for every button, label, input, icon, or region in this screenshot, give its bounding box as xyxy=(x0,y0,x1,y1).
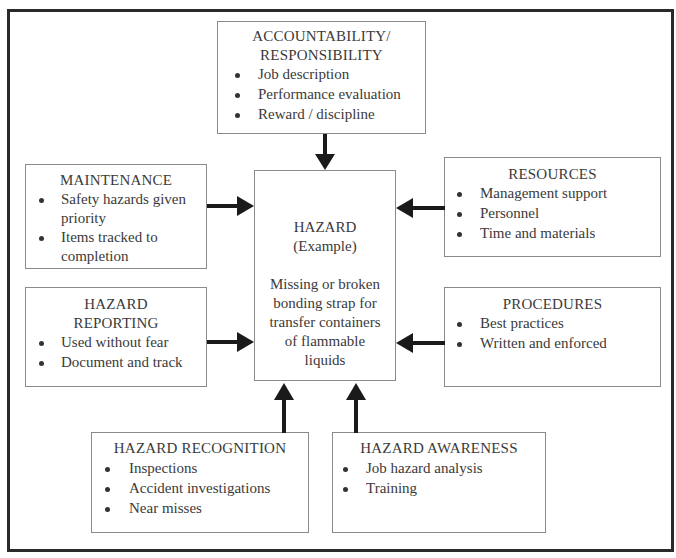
center-subtitle: (Example) xyxy=(255,237,395,256)
list-item: Reward / discipline xyxy=(218,105,425,124)
list-item: Document and track xyxy=(26,353,206,372)
item-text: Personnel xyxy=(480,205,539,221)
box-hazard-center: HAZARD (Example) Missing or broken bondi… xyxy=(254,170,396,381)
title-line: REPORTING xyxy=(26,314,206,333)
arrow-up-icon xyxy=(344,382,368,433)
box-title: HAZARD AWARENESS xyxy=(333,439,545,458)
bullet-icon xyxy=(343,467,348,472)
item-list: Safety hazards givenpriority Items track… xyxy=(26,190,206,266)
item-text: Job hazard analysis xyxy=(366,460,483,476)
arrow-down-icon xyxy=(313,134,337,172)
item-text: priority xyxy=(61,209,206,228)
list-item: Inspections xyxy=(92,459,308,478)
item-text: Near misses xyxy=(129,500,202,516)
list-item: Time and materials xyxy=(445,224,660,243)
description-line: bonding strap for xyxy=(255,294,395,313)
box-title: MAINTENANCE xyxy=(26,171,206,190)
box-hazard-reporting: HAZARD REPORTING Used without fear Docum… xyxy=(25,287,207,387)
description-line: of flammable xyxy=(255,332,395,351)
bullet-icon xyxy=(457,212,462,217)
item-text: Performance evaluation xyxy=(258,86,401,102)
list-item: Job description xyxy=(218,65,425,84)
bullet-icon xyxy=(457,192,462,197)
arrow-left-icon xyxy=(395,332,445,354)
title-line: ACCOUNTABILITY/ xyxy=(218,27,425,46)
box-title: ACCOUNTABILITY/ RESPONSIBILITY xyxy=(218,27,425,65)
box-accountability: ACCOUNTABILITY/ RESPONSIBILITY Job descr… xyxy=(217,21,426,134)
title-line: HAZARD RECOGNITION xyxy=(92,439,308,458)
item-text: Written and enforced xyxy=(480,335,607,351)
item-list: Job hazard analysis Training xyxy=(333,459,545,498)
center-title: HAZARD xyxy=(255,218,395,237)
item-list: Management support Personnel Time and ma… xyxy=(445,184,660,243)
bullet-icon xyxy=(105,507,110,512)
item-text: Training xyxy=(366,480,417,496)
bullet-icon xyxy=(39,198,44,203)
bullet-icon xyxy=(457,322,462,327)
item-text: Inspections xyxy=(129,460,197,476)
item-list: Job description Performance evaluation R… xyxy=(218,65,425,124)
arrow-left-icon xyxy=(395,197,445,219)
title-line: HAZARD AWARENESS xyxy=(333,439,545,458)
item-text: Time and materials xyxy=(480,225,595,241)
item-list: Best practices Written and enforced xyxy=(445,314,660,353)
bullet-icon xyxy=(235,113,240,118)
bullet-icon xyxy=(105,487,110,492)
list-item: Performance evaluation xyxy=(218,85,425,104)
item-text: Document and track xyxy=(61,354,183,370)
bullet-icon xyxy=(235,73,240,78)
list-item: Written and enforced xyxy=(445,334,660,353)
center-description: Missing or broken bonding strap for tran… xyxy=(255,275,395,370)
item-text: Best practices xyxy=(480,315,564,331)
arrow-right-icon xyxy=(207,331,257,353)
item-text: Accident investigations xyxy=(129,480,270,496)
arrow-right-icon xyxy=(207,195,257,217)
bullet-icon xyxy=(235,93,240,98)
box-procedures: PROCEDURES Best practices Written and en… xyxy=(444,287,661,387)
title-line: PROCEDURES xyxy=(445,295,660,314)
box-hazard-recognition: HAZARD RECOGNITION Inspections Accident … xyxy=(91,432,309,533)
item-list: Inspections Accident investigations Near… xyxy=(92,459,308,518)
list-item: Used without fear xyxy=(26,333,206,352)
bullet-icon xyxy=(343,487,348,492)
list-item: Near misses xyxy=(92,499,308,518)
bullet-icon xyxy=(457,342,462,347)
bullet-icon xyxy=(39,341,44,346)
item-text: Used without fear xyxy=(61,334,168,350)
arrow-up-icon xyxy=(272,382,296,433)
list-item: Items tracked tocompletion xyxy=(26,228,206,266)
list-item: Training xyxy=(333,479,545,498)
item-text: Items tracked to xyxy=(61,228,206,247)
box-title: PROCEDURES xyxy=(445,295,660,314)
item-text: Safety hazards given xyxy=(61,190,206,209)
title-line: MAINTENANCE xyxy=(26,171,206,190)
title-line: RESPONSIBILITY xyxy=(218,46,425,65)
bullet-icon xyxy=(39,236,44,241)
item-text: completion xyxy=(61,247,206,266)
box-title: HAZARD REPORTING xyxy=(26,295,206,333)
list-item: Job hazard analysis xyxy=(333,459,545,478)
box-hazard-awareness: HAZARD AWARENESS Job hazard analysis Tra… xyxy=(332,432,546,533)
list-item: Personnel xyxy=(445,204,660,223)
title-line: HAZARD xyxy=(26,295,206,314)
item-text: Job description xyxy=(258,66,349,82)
item-text: Reward / discipline xyxy=(258,106,375,122)
list-item: Management support xyxy=(445,184,660,203)
box-title: HAZARD RECOGNITION xyxy=(92,439,308,458)
bullet-icon xyxy=(39,361,44,366)
bullet-icon xyxy=(457,232,462,237)
box-maintenance: MAINTENANCE Safety hazards givenpriority… xyxy=(25,164,207,269)
list-item: Accident investigations xyxy=(92,479,308,498)
description-line: Missing or broken xyxy=(255,275,395,294)
item-text: Management support xyxy=(480,185,607,201)
item-list: Used without fear Document and track xyxy=(26,333,206,372)
box-resources: RESOURCES Management support Personnel T… xyxy=(444,157,661,257)
description-line: liquids xyxy=(255,351,395,370)
title-line: RESOURCES xyxy=(445,165,660,184)
bullet-icon xyxy=(105,467,110,472)
list-item: Best practices xyxy=(445,314,660,333)
description-line: transfer containers xyxy=(255,313,395,332)
box-title: RESOURCES xyxy=(445,165,660,184)
list-item: Safety hazards givenpriority xyxy=(26,190,206,228)
